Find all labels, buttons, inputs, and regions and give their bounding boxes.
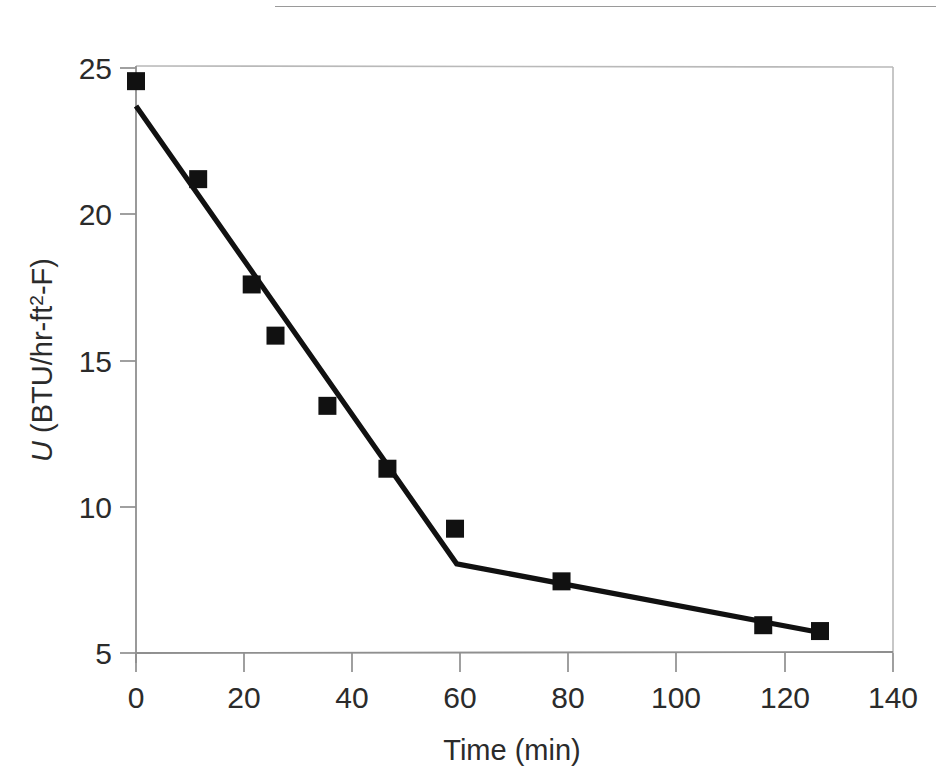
data-point-marker <box>811 622 829 640</box>
data-point-marker <box>754 616 772 634</box>
chart-figure: 25 20 15 10 5 0 20 40 60 80 100 120 140 … <box>0 0 936 783</box>
data-point-marker <box>243 275 261 293</box>
y-axis-ticks <box>120 68 136 653</box>
data-point-marker <box>378 460 396 478</box>
figure-page: 25 20 15 10 5 0 20 40 60 80 100 120 140 … <box>0 0 936 783</box>
y-axis-title: U (BTU/hr-ft2-F) <box>26 258 58 462</box>
y-tick-label: 25 <box>79 52 112 85</box>
x-axis-ticks <box>136 653 893 672</box>
x-axis-title: Time (min) <box>443 734 580 766</box>
data-point-marker <box>446 520 464 538</box>
y-axis-title-symbol: U <box>26 440 58 462</box>
y-tick-label: 5 <box>95 637 112 670</box>
chart-svg: 25 20 15 10 5 0 20 40 60 80 100 120 140 … <box>0 0 936 783</box>
data-point-marker <box>318 397 336 415</box>
x-tick-label: 140 <box>868 681 918 714</box>
x-tick-label: 80 <box>551 681 584 714</box>
x-tick-labels: 0 20 40 60 80 100 120 140 <box>128 681 918 714</box>
fitted-line <box>136 106 820 633</box>
y-tick-label: 10 <box>79 491 112 524</box>
y-tick-label: 15 <box>79 345 112 378</box>
x-tick-label: 60 <box>443 681 476 714</box>
x-tick-label: 40 <box>335 681 368 714</box>
x-tick-label: 120 <box>760 681 810 714</box>
x-tick-label: 100 <box>651 681 701 714</box>
y-axis-title-superscript: 2 <box>26 295 47 306</box>
data-point-marker <box>267 327 285 345</box>
data-point-marker <box>553 572 571 590</box>
y-axis-title-unit-prefix: (BTU/hr-ft <box>26 306 58 441</box>
x-tick-label: 20 <box>227 681 260 714</box>
y-axis-title-unit-suffix: -F) <box>26 258 58 295</box>
x-tick-label: 0 <box>128 681 145 714</box>
data-point-marker <box>189 170 207 188</box>
data-point-group <box>127 72 829 640</box>
svg-text:U (BTU/hr-ft2-F): U (BTU/hr-ft2-F) <box>26 258 58 462</box>
data-point-marker <box>127 72 145 90</box>
y-tick-labels: 25 20 15 10 5 <box>79 52 112 670</box>
y-tick-label: 20 <box>79 198 112 231</box>
